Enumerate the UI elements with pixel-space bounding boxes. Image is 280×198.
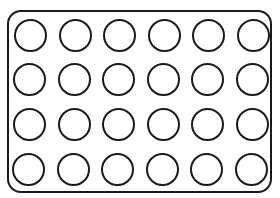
well-r3-c4 [147,108,180,141]
well-r4-c6 [235,153,268,186]
well-r1-c6 [237,19,270,52]
well-r3-c6 [236,108,269,141]
well-r1-c4 [148,19,181,52]
well-r1-c1 [14,19,47,52]
well-r3-c2 [58,108,91,141]
well-r2-c6 [236,63,269,96]
well-r3-c1 [13,108,46,141]
well-r1-c2 [59,19,92,52]
well-r2-c4 [147,63,180,96]
well-r3-c3 [102,108,135,141]
well-r4-c3 [101,153,134,186]
well-r4-c4 [146,153,179,186]
well-r4-c1 [12,153,45,186]
well-r2-c2 [58,63,91,96]
well-r4-c2 [57,153,90,186]
well-r2-c1 [13,63,46,96]
well-r2-c3 [102,63,135,96]
well-r1-c3 [103,19,136,52]
